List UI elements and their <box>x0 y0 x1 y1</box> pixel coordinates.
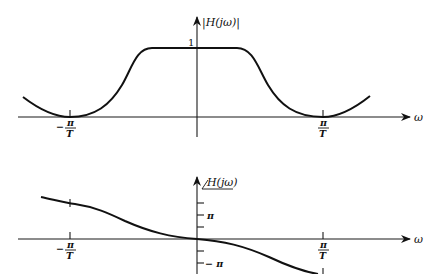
phase-y-tick-label-neg-pi: − π <box>205 258 224 269</box>
svg-text:−: − <box>56 121 64 132</box>
mag-x-tick-label-neg: − π T <box>56 117 76 139</box>
phase-plot: ω H(jω) π − π − π T π T <box>18 176 423 274</box>
svg-text:π: π <box>319 117 328 128</box>
magnitude-plot: ω |H(jω)| 1 − π T π T <box>18 16 423 139</box>
svg-text:T: T <box>319 250 327 261</box>
mag-x-axis-label: ω <box>414 111 423 124</box>
phase-x-axis-label: ω <box>414 233 423 246</box>
svg-text:T: T <box>319 128 327 139</box>
mag-x-tick-label-pos: π T <box>318 117 329 139</box>
frequency-response-diagram: ω |H(jω)| 1 − π T π T ω H(jω) <box>0 0 425 274</box>
phase-curve <box>41 197 318 274</box>
phase-y-axis-label: H(jω) <box>202 176 238 189</box>
svg-text:−: − <box>56 243 64 254</box>
mag-y-axis-label: |H(jω)| <box>202 16 240 30</box>
svg-text:T: T <box>66 128 74 139</box>
phase-x-tick-label-pos: π T <box>318 239 329 261</box>
svg-text:T: T <box>66 250 74 261</box>
phase-x-tick-label-neg: − π T <box>56 239 76 261</box>
mag-y-tick-label-1: 1 <box>188 37 194 48</box>
phase-y-tick-label-pi: π <box>206 210 215 221</box>
svg-text:π: π <box>66 239 75 250</box>
svg-text:π: π <box>66 117 75 128</box>
svg-text:π: π <box>319 239 328 250</box>
svg-text:H(jω): H(jω) <box>206 176 238 189</box>
